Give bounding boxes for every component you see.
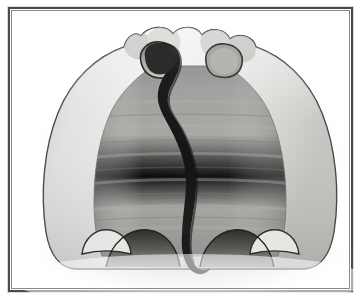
picture-frame (8, 7, 353, 292)
screenshot-root (0, 0, 363, 306)
base-fade-haze (20, 254, 361, 299)
anatomical-illustration (20, 18, 361, 299)
right-opening (206, 44, 243, 78)
illustration-plate (20, 18, 361, 299)
